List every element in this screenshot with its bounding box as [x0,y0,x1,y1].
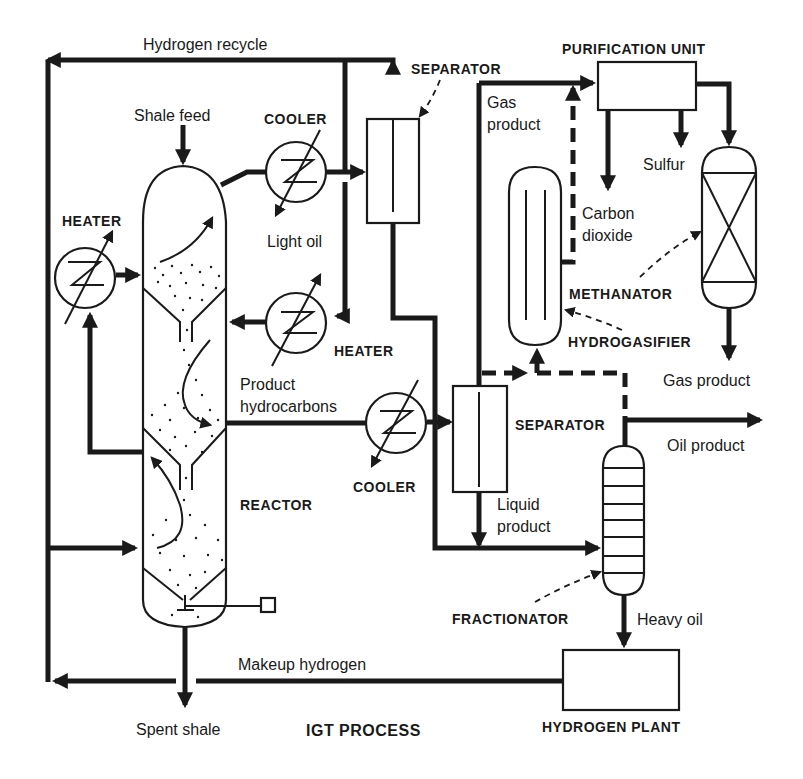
label-shale-feed: Shale feed [134,107,211,124]
label-light-oil: Light oil [267,233,322,250]
label-hydrogasifier: HYDROGASIFIER [568,334,691,350]
label-heavy-oil: Heavy oil [637,611,703,628]
label-spent-shale: Spent shale [136,721,221,738]
label-gas-product-top-1: Gas [487,94,516,111]
heater-left [55,232,143,452]
heater-mid [232,275,326,366]
label-cooler-mid: COOLER [353,479,416,495]
cooler-top [221,130,363,215]
igt-process-flow-diagram: Hydrogen recycle SEPARATOR PURIFICATION … [0,0,803,779]
label-hydrogen-plant: HYDROGEN PLANT [542,719,680,735]
label-carbon-dioxide-2: dioxide [582,227,633,244]
hydrogen-plant [55,650,679,710]
label-oil-product: Oil product [667,437,745,454]
label-makeup-hydrogen: Makeup hydrogen [238,656,366,673]
label-heater-left: HEATER [62,213,122,229]
reactor-vessel [143,166,275,627]
label-separator-mid: SEPARATOR [515,417,605,433]
label-reactor: REACTOR [240,497,312,513]
label-liquid-product-1: Liquid [497,496,540,513]
label-product-hydrocarbons-1: Product [240,376,296,393]
label-gas-product-top-2: product [487,116,541,133]
label-methanator: METHANATOR [569,286,672,302]
label-product-hydrocarbons-2: hydrocarbons [240,398,337,415]
label-sulfur: Sulfur [643,156,685,173]
label-liquid-product-2: product [497,518,551,535]
label-gas-product-out: Gas product [663,372,751,389]
label-fractionator: FRACTIONATOR [452,611,569,627]
label-cooler-top: COOLER [264,111,327,127]
label-heater-mid: HEATER [334,343,394,359]
label-purification-unit: PURIFICATION UNIT [562,41,706,57]
label-separator-top: SEPARATOR [411,61,501,77]
methanator-vessel [640,147,756,358]
diagram-title: IGT PROCESS [306,722,421,739]
label-carbon-dioxide-1: Carbon [582,205,634,222]
label-hydrogen-recycle: Hydrogen recycle [143,36,268,53]
